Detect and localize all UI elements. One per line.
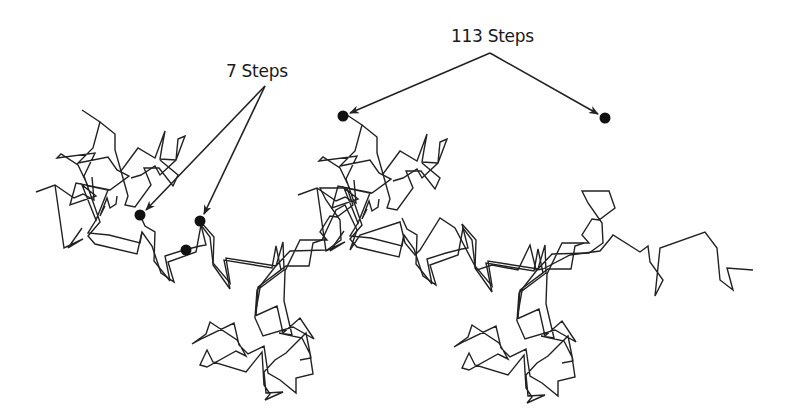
arrow-113-steps-left <box>350 53 490 113</box>
marker-dot-a <box>135 210 146 221</box>
arrow-113-steps-right <box>490 53 598 114</box>
label-7-steps: 7 Steps <box>226 61 288 81</box>
walk-figure <box>0 0 789 415</box>
random-walk-diagram: 7 Steps 113 Steps <box>0 0 789 415</box>
arrow-7-steps-right <box>204 86 265 214</box>
marker-dot-b <box>195 216 206 227</box>
walk-right-copy <box>298 113 615 403</box>
marker-dot-d <box>338 111 349 122</box>
walk-left-copy <box>36 110 353 400</box>
arrow-7-steps-left <box>146 86 265 210</box>
label-113-steps: 113 Steps <box>451 26 534 46</box>
marker-dot-e <box>600 113 611 124</box>
marker-dot-c <box>181 245 192 256</box>
